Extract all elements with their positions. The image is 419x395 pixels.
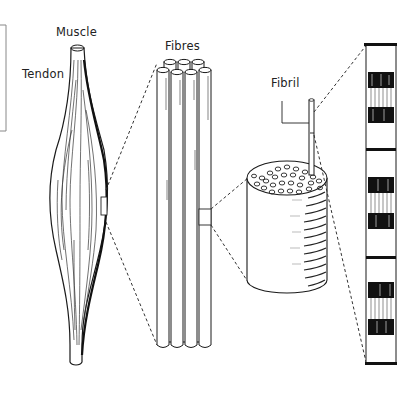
fibril-bundle-icon	[247, 161, 327, 293]
muscle-icon	[50, 45, 107, 365]
fibres-icon	[157, 59, 211, 347]
sarcomere-strip-icon	[364, 43, 397, 365]
left-frame	[0, 25, 6, 131]
muscle-structure-diagram	[0, 0, 419, 395]
